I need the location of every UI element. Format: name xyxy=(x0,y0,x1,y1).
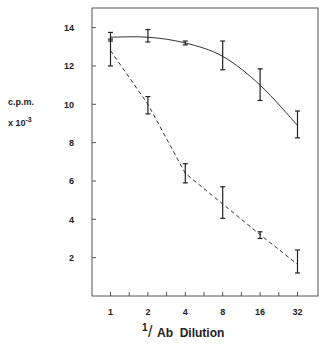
y-tick-label: 14 xyxy=(64,23,74,33)
x-tick-label: 8 xyxy=(220,307,225,317)
series-solid xyxy=(108,30,300,138)
x-tick-label: 16 xyxy=(255,307,265,317)
y-tick-label: 6 xyxy=(69,176,74,186)
plot-border xyxy=(92,8,318,296)
series-line xyxy=(111,37,298,126)
x-axis-label-slash: / xyxy=(148,323,153,340)
chart: 2468101214 12481632 1 / Ab Dilution xyxy=(0,0,328,344)
series-line xyxy=(111,51,298,265)
y-axis-label-multiplier: x 10 xyxy=(8,118,26,128)
y-tick-label: 10 xyxy=(64,100,74,110)
x-tick-label: 1 xyxy=(108,307,113,317)
y-tick-label: 2 xyxy=(69,253,74,263)
y-axis-label-line2: x 10-3 xyxy=(8,116,32,128)
y-tick-label: 8 xyxy=(69,138,74,148)
y-axis-label-line1: c.p.m. xyxy=(8,97,34,107)
x-axis-label: Ab Dilution xyxy=(157,326,224,340)
x-tick-label: 4 xyxy=(183,307,188,317)
y-axis-ticks: 2468101214 xyxy=(64,23,96,263)
x-tick-label: 2 xyxy=(145,307,150,317)
y-tick-label: 4 xyxy=(69,215,74,225)
y-tick-label: 12 xyxy=(64,61,74,71)
y-axis-label-exponent: -3 xyxy=(26,116,32,123)
series-dashed xyxy=(108,39,300,273)
data-series xyxy=(108,30,300,273)
plot-frame xyxy=(92,8,318,296)
x-tick-label: 32 xyxy=(292,307,302,317)
